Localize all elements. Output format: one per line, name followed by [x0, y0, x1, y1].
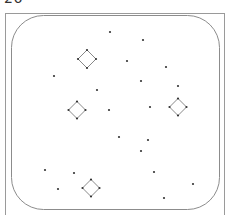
scatter-dot [147, 139, 149, 141]
scatter-dot [126, 60, 128, 62]
scatter-dot [57, 188, 59, 190]
diamond-shape [81, 178, 100, 197]
diamond-vertex-dot [84, 109, 86, 111]
diamond-shape [67, 100, 86, 119]
scatter-dot [165, 66, 167, 68]
outer-frame [6, 14, 225, 216]
dot-group [44, 31, 194, 199]
scatter-dot [163, 197, 165, 199]
scatter-dot [140, 150, 142, 152]
diamond-vertex-dot [81, 187, 83, 189]
diamond-vertex-dot [86, 67, 88, 69]
diamond-vertex-dot [95, 58, 97, 60]
diamond-vertex-dot [177, 97, 179, 99]
scatter-dot [118, 136, 120, 138]
diamond-vertex-dot [90, 178, 92, 180]
diamond-shape [77, 49, 97, 69]
diamond-vertex-dot [98, 187, 100, 189]
scatter-dot [96, 89, 98, 91]
scatter-dot [177, 85, 179, 87]
diamond-group [67, 49, 187, 198]
scatter-dot [140, 80, 142, 82]
diamond-shape [168, 97, 187, 116]
scatter-dot [108, 109, 110, 111]
scatter-dot [53, 75, 55, 77]
diamond-vertex-dot [168, 106, 170, 108]
scatter-dot [142, 39, 144, 41]
diamond-vertex-dot [77, 58, 79, 60]
diamond-vertex-dot [90, 195, 92, 197]
diamond-vertex-dot [76, 100, 78, 102]
scatter-dot [153, 171, 155, 173]
scatter-dot [149, 106, 151, 108]
diamond-vertex-dot [67, 109, 69, 111]
inner-rounded-frame [12, 16, 220, 210]
scatter-dot [192, 183, 194, 185]
diamond-vertex-dot [185, 106, 187, 108]
diamond-vertex-dot [86, 49, 88, 51]
diagram-canvas [0, 0, 230, 215]
scatter-dot [44, 169, 46, 171]
scatter-dot [109, 31, 111, 33]
scatter-dot [73, 172, 75, 174]
diamond-vertex-dot [177, 114, 179, 116]
diamond-vertex-dot [76, 117, 78, 119]
